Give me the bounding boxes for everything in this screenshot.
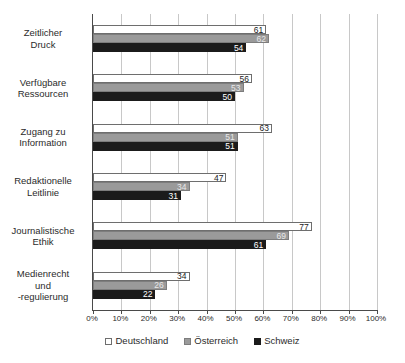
bar-group: 565350	[93, 63, 377, 112]
bar-schweiz-1: 50	[93, 92, 235, 101]
bar-value-label: 61	[253, 240, 264, 249]
x-axis-tick-label: 70%	[283, 314, 299, 324]
category-label: RedaktionelleLeitlinie	[0, 175, 86, 198]
bar-value-label: 26	[153, 281, 164, 290]
category-label: Medienrechtund-regulierung	[0, 268, 86, 303]
bar-row: 53	[93, 83, 377, 92]
bar-row: 51	[93, 133, 377, 142]
x-axis-tick-label: 100%	[366, 314, 386, 324]
bar-value-label: 51	[224, 142, 235, 151]
bar-row: 77	[93, 222, 377, 231]
bar-schweiz-3: 31	[93, 191, 181, 200]
bar-schweiz-4: 61	[93, 240, 266, 249]
bar-value-label: 31	[168, 191, 179, 200]
legend-label: Schweiz	[264, 335, 299, 347]
bar-value-label: 54	[233, 43, 244, 52]
bar-row: 51	[93, 142, 377, 151]
x-axis-tick-label: 80%	[311, 314, 327, 324]
bar-value-label: 22	[142, 290, 153, 299]
legend-label: Österreich	[194, 335, 238, 347]
bar-deutschland-0: 61	[93, 25, 266, 34]
bar-row: 22	[93, 290, 377, 299]
plot-area: 616254565350635151473431776961342622	[92, 14, 377, 311]
bar-row: 26	[93, 281, 377, 290]
x-axis-tick-label: 90%	[340, 314, 356, 324]
bar-sterreich-1: 53	[93, 83, 244, 92]
bar-value-label: 47	[213, 173, 224, 182]
bar-row: 61	[93, 240, 377, 249]
bar-group: 473431	[93, 162, 377, 211]
bar-sterreich-2: 51	[93, 133, 238, 142]
bar-group: 776961	[93, 211, 377, 260]
x-axis-tick-label: 0%	[86, 314, 98, 324]
bar-value-label: 77	[298, 222, 309, 231]
bar-value-label: 63	[258, 124, 269, 133]
category-label: JournalistischeEthik	[0, 225, 86, 248]
gridline	[377, 14, 378, 310]
category-label-line: Journalistische	[0, 225, 86, 237]
legend-swatch-icon	[254, 338, 261, 345]
bar-groups: 616254565350635151473431776961342622	[93, 14, 377, 310]
category-label-line: und	[0, 280, 86, 292]
bar-group: 342622	[93, 261, 377, 310]
chart-legend: DeutschlandÖsterreichSchweiz	[0, 335, 405, 347]
category-label-line: Verfügbare	[0, 77, 86, 89]
bar-deutschland-5: 34	[93, 272, 190, 281]
category-label: ZeitlicherDruck	[0, 27, 86, 50]
legend-swatch-icon	[184, 338, 191, 345]
category-label-line: Leitlinie	[0, 187, 86, 199]
bar-row: 50	[93, 92, 377, 101]
category-label-line: Zugang zu	[0, 126, 86, 138]
bar-group: 616254	[93, 14, 377, 63]
bar-row: 69	[93, 231, 377, 240]
category-label-line: Redaktionelle	[0, 175, 86, 187]
x-axis-tick-label: 20%	[141, 314, 157, 324]
bar-value-label: 69	[275, 231, 286, 240]
bar-value-label: 34	[176, 182, 187, 191]
bar-chart: ZeitlicherDruckVerfügbareRessourcenZugan…	[0, 0, 405, 363]
bar-deutschland-2: 63	[93, 124, 272, 133]
category-label-line: Medienrecht	[0, 268, 86, 280]
category-label-line: -regulierung	[0, 291, 86, 303]
bar-row: 61	[93, 25, 377, 34]
bar-row: 31	[93, 191, 377, 200]
category-label-line: Zeitlicher	[0, 27, 86, 39]
legend-label: Deutschland	[115, 335, 168, 347]
category-label-line: Ethik	[0, 236, 86, 248]
bar-row: 47	[93, 173, 377, 182]
value-axis: 0%10%20%30%40%50%60%70%80%90%100%	[92, 314, 376, 328]
bar-row: 63	[93, 124, 377, 133]
x-axis-tick-label: 10%	[112, 314, 128, 324]
bar-schweiz-2: 51	[93, 142, 238, 151]
category-label: Zugang zuInformation	[0, 126, 86, 149]
bar-value-label: 56	[239, 74, 250, 83]
legend-item-deutschland[interactable]: Deutschland	[105, 335, 168, 347]
bar-value-label: 50	[222, 92, 233, 101]
bar-value-label: 62	[256, 34, 267, 43]
x-axis-tick-label: 60%	[254, 314, 270, 324]
bar-sterreich-5: 26	[93, 281, 167, 290]
category-axis: ZeitlicherDruckVerfügbareRessourcenZugan…	[0, 14, 92, 310]
bar-value-label: 53	[230, 83, 241, 92]
legend-item-schweiz[interactable]: Schweiz	[254, 335, 299, 347]
legend-item-sterreich[interactable]: Österreich	[184, 335, 238, 347]
bar-deutschland-3: 47	[93, 173, 226, 182]
bar-row: 34	[93, 182, 377, 191]
x-axis-tick-label: 30%	[169, 314, 185, 324]
category-label-line: Druck	[0, 39, 86, 51]
bar-row: 34	[93, 272, 377, 281]
legend-swatch-icon	[105, 338, 112, 345]
category-label-line: Ressourcen	[0, 88, 86, 100]
bar-value-label: 34	[176, 272, 187, 281]
bar-row: 54	[93, 43, 377, 52]
bar-deutschland-1: 56	[93, 74, 252, 83]
bar-schweiz-0: 54	[93, 43, 246, 52]
category-label-line: Information	[0, 137, 86, 149]
bar-group: 635151	[93, 113, 377, 162]
category-label: VerfügbareRessourcen	[0, 77, 86, 100]
x-axis-tick-label: 40%	[198, 314, 214, 324]
x-axis-tick-label: 50%	[226, 314, 242, 324]
bar-schweiz-5: 22	[93, 290, 155, 299]
